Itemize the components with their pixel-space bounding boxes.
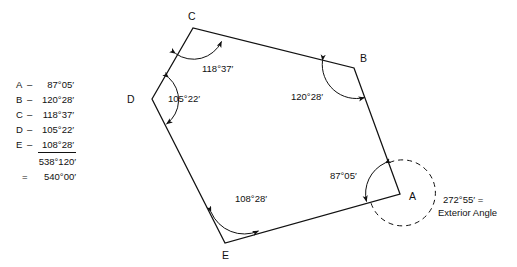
row-label-d: D <box>16 124 23 135</box>
row-dash-b: – <box>27 94 33 105</box>
table-row: A – 87°05′ <box>16 79 74 90</box>
table-row: B – 120°28′ <box>16 94 74 105</box>
angle-value-e: 108°28′ <box>235 193 267 204</box>
vertex-label-c: C <box>188 10 196 22</box>
vertex-label-d: D <box>127 93 135 105</box>
row-dash-e: – <box>27 139 33 150</box>
row-value-c: 118°37′ <box>43 109 75 120</box>
exterior-angle-dashed-arc <box>371 160 435 226</box>
row-value-d: 105°22′ <box>42 124 74 135</box>
sum-total: = 540°00′ <box>22 171 76 182</box>
row-value-b: 120°28′ <box>42 94 74 105</box>
angle-arc-c <box>176 42 222 60</box>
vertex-label-b: B <box>360 52 367 64</box>
row-dash-a: – <box>27 79 33 90</box>
angle-value-c: 118°37′ <box>202 63 234 74</box>
pentagon-angle-diagram: A B C D E 118°37′ 105°22′ 120°28′ 87°05′… <box>0 0 517 267</box>
vertex-label-e: E <box>222 249 229 261</box>
exterior-angle-caption: Exterior Angle <box>438 207 497 218</box>
row-dash-c: – <box>27 109 33 120</box>
vertex-label-a: A <box>409 190 416 202</box>
sum-subtotal: 538°120′ <box>39 156 76 167</box>
table-row: E – 108°28′ <box>16 139 74 150</box>
exterior-angle-value: 272°55′ = <box>443 194 484 205</box>
angle-arc-a <box>366 163 385 202</box>
angle-value-b: 120°28′ <box>291 91 323 102</box>
row-label-e: E <box>16 139 22 150</box>
row-label-b: B <box>16 94 22 105</box>
sum-total-value: 540°00′ <box>44 171 76 182</box>
angle-value-a: 87°05′ <box>330 170 357 181</box>
row-dash-d: – <box>27 124 33 135</box>
row-label-a: A <box>16 79 23 90</box>
diagram-canvas: A B C D E 118°37′ 105°22′ 120°28′ 87°05′… <box>0 0 517 267</box>
angle-value-d: 105°22′ <box>168 93 200 104</box>
row-value-e: 108°28′ <box>42 139 74 150</box>
angle-sum-table: A – 87°05′ B – 120°28′ C – 118°37′ D – 1… <box>16 79 76 182</box>
row-label-c: C <box>16 109 23 120</box>
table-row: D – 105°22′ <box>16 124 74 135</box>
table-row: C – 118°37′ <box>16 109 74 120</box>
sum-total-prefix: = <box>22 171 28 182</box>
row-value-a: 87°05′ <box>47 79 74 90</box>
